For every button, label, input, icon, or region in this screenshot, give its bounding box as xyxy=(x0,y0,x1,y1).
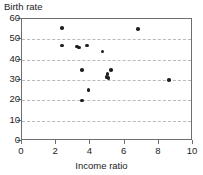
x-tick-mark-2 xyxy=(55,140,56,144)
data-point xyxy=(60,26,64,30)
y-tick-label: 0 xyxy=(15,135,20,145)
y-tick-label: 50 xyxy=(9,33,20,43)
x-axis-label: Income ratio xyxy=(0,160,203,171)
data-point xyxy=(85,44,89,48)
x-tick-mark-8 xyxy=(158,140,159,144)
x-tick-mark-4 xyxy=(89,140,90,144)
data-point xyxy=(167,78,171,82)
x-tick-label: 6 xyxy=(114,146,134,156)
y-tick-label: 40 xyxy=(9,54,20,64)
data-point xyxy=(101,50,105,54)
y-axis-label: Birth rate xyxy=(4,1,43,12)
data-point xyxy=(109,68,113,72)
data-point xyxy=(87,88,91,92)
gridline-y-40 xyxy=(22,60,191,61)
gridline-y-10 xyxy=(22,121,191,122)
data-point xyxy=(80,99,84,103)
x-tick-label: 8 xyxy=(148,146,168,156)
x-tick-mark-0 xyxy=(21,140,22,144)
data-point xyxy=(60,44,64,48)
plot-area xyxy=(21,18,192,140)
data-point xyxy=(136,27,140,31)
scatter-chart-figure: Birth rate 0102030405060 0246810 Income … xyxy=(0,0,203,175)
y-tick-label: 10 xyxy=(9,115,20,125)
x-tick-label: 10 xyxy=(182,146,202,156)
data-point xyxy=(107,76,111,80)
gridline-y-30 xyxy=(22,80,191,81)
x-tick-mark-6 xyxy=(124,140,125,144)
x-tick-label: 0 xyxy=(11,146,31,156)
x-tick-mark-10 xyxy=(192,140,193,144)
gridline-y-20 xyxy=(22,100,191,101)
x-tick-label: 4 xyxy=(79,146,99,156)
y-tick-label: 60 xyxy=(9,13,20,23)
y-tick-label: 30 xyxy=(9,74,20,84)
x-tick-label: 2 xyxy=(45,146,65,156)
data-point xyxy=(80,68,84,72)
data-point xyxy=(77,46,81,50)
gridline-y-50 xyxy=(22,39,191,40)
y-tick-label: 20 xyxy=(9,94,20,104)
